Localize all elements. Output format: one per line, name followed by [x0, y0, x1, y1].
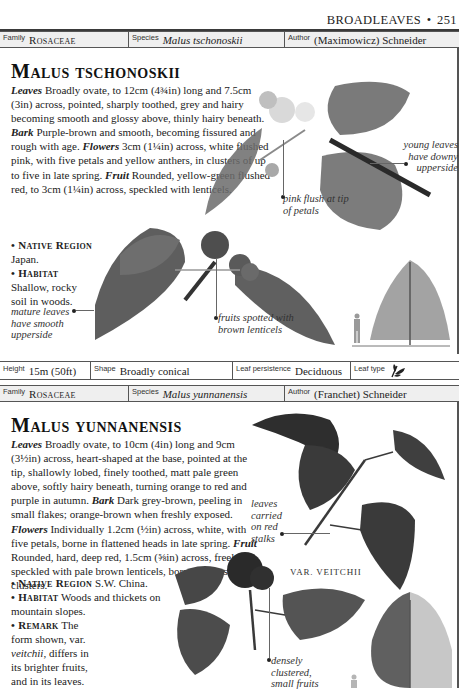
human-scale-figure-icon — [351, 675, 357, 689]
tree-half-foliage-illustration — [371, 592, 452, 688]
leader-line — [269, 588, 270, 658]
leader-line — [284, 533, 330, 534]
caption-dense-fruits: densely clustered, small fruits — [271, 655, 331, 690]
leader-dot — [267, 658, 271, 662]
variety-label: VAR. VEITCHII — [290, 567, 362, 577]
caption-red-stalks: leaves carried on red stalks — [251, 498, 291, 544]
